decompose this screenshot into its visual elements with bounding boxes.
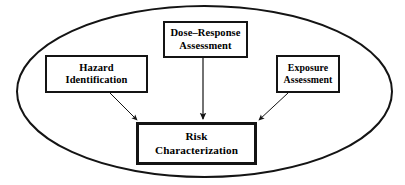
risk-characterization-node[interactable]: Risk Characterization (136, 122, 257, 165)
risk-characterization-line-2: Characterization (155, 144, 238, 157)
dose-response-assessment-node[interactable]: Dose–Response Assessment (163, 21, 248, 58)
hazard-identification-node[interactable]: Hazard Identification (45, 55, 148, 93)
hazard-identification-line-1: Hazard (79, 62, 113, 74)
hazard-identification-line-2: Identification (65, 74, 127, 86)
dose-response-line-1: Dose–Response (170, 27, 240, 39)
exposure-assessment-node[interactable]: Exposure Assessment (276, 55, 340, 93)
dose-response-line-2: Assessment (179, 40, 231, 52)
exposure-assessment-line-2: Assessment (284, 74, 333, 86)
exposure-assessment-line-1: Exposure (288, 62, 328, 74)
diagram-canvas: Hazard Identification Dose–Response Asse… (0, 0, 405, 185)
risk-characterization-line-1: Risk (185, 130, 207, 143)
